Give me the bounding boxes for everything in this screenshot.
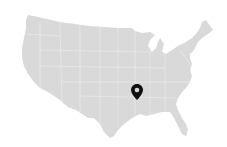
map-container (0, 0, 227, 147)
map-pin-icon[interactable] (131, 84, 143, 100)
us-map[interactable] (0, 0, 227, 147)
us-landmass (22, 15, 213, 138)
